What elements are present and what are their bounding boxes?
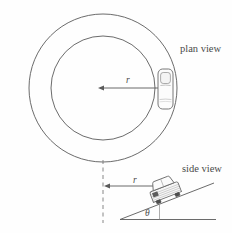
radius-arrow-side-head-left	[104, 184, 110, 189]
banked-track-diagram	[0, 0, 232, 233]
radius-arrow-plan-head-left	[98, 86, 104, 91]
figure-container: plan view side view r r θ	[0, 0, 232, 233]
radius-arrow-plan-group	[98, 86, 166, 91]
car-side-view-group	[147, 174, 183, 205]
bank-angle-label: θ	[145, 209, 150, 219]
side-view-label: side view	[182, 164, 222, 175]
car-plan-view-group	[158, 69, 173, 109]
radius-label-plan: r	[126, 76, 130, 86]
car-plan-roof	[161, 73, 171, 84]
radius-label-side: r	[133, 176, 137, 186]
plan-view-label: plan view	[180, 44, 221, 55]
